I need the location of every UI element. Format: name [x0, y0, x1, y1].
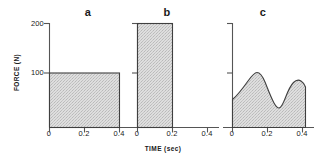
panel-a-force-area [50, 73, 120, 128]
panel-b-force-area [138, 24, 173, 128]
panel-c-force-curve [233, 73, 306, 128]
force-time-figure: a b c FORCE (N) TIME (sec) 200 100 0 0.2… [0, 0, 326, 162]
panel-b [128, 23, 219, 133]
panel-a [44, 23, 131, 133]
plot-svg [0, 0, 326, 162]
panel-c [223, 23, 314, 133]
